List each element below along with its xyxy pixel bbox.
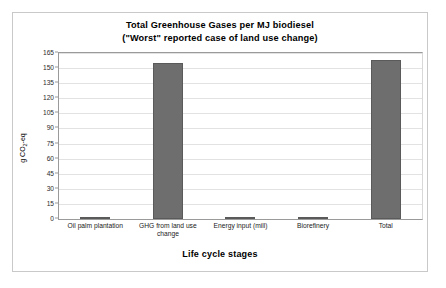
y-tick-label: 15 bbox=[14, 199, 54, 206]
y-tick-label: 60 bbox=[14, 154, 54, 161]
y-tick-label: 45 bbox=[14, 169, 54, 176]
y-tick-mark bbox=[55, 112, 58, 113]
y-tick-label: 165 bbox=[14, 49, 54, 56]
y-tick-mark bbox=[55, 172, 58, 173]
y-tick-mark bbox=[55, 52, 58, 53]
x-tick-label: Biorefinery bbox=[277, 222, 350, 230]
y-tick-mark bbox=[55, 142, 58, 143]
bar-series bbox=[59, 53, 422, 219]
chart-frame: Total Greenhouse Gases per MJ biodiesel … bbox=[12, 12, 428, 272]
x-axis-title: Life cycle stages bbox=[13, 249, 427, 259]
y-tick-mark bbox=[55, 157, 58, 158]
x-tick-label: Energy input (mill) bbox=[204, 222, 277, 230]
x-axis-tick-labels: Oil palm plantationGHG from land use cha… bbox=[59, 222, 422, 248]
y-tick-mark bbox=[55, 127, 58, 128]
y-tick-label: 120 bbox=[14, 94, 54, 101]
y-tick-mark bbox=[55, 187, 58, 188]
bar-slot bbox=[277, 53, 350, 219]
y-tick-mark bbox=[55, 97, 58, 98]
bar[interactable] bbox=[225, 217, 255, 219]
bar[interactable] bbox=[153, 63, 183, 219]
y-tick-mark bbox=[55, 202, 58, 203]
bar-slot bbox=[59, 53, 132, 219]
chart-title: Total Greenhouse Gases per MJ biodiesel … bbox=[13, 19, 427, 44]
x-tick-label: Total bbox=[349, 222, 422, 230]
y-tick-label: 90 bbox=[14, 124, 54, 131]
bar-slot bbox=[204, 53, 277, 219]
y-tick-mark bbox=[55, 218, 58, 219]
y-tick-label: 135 bbox=[14, 79, 54, 86]
chart-title-line-2: ("Worst" reported case of land use chang… bbox=[13, 32, 427, 45]
bar-slot bbox=[132, 53, 205, 219]
y-tick-mark bbox=[55, 67, 58, 68]
y-tick-label: 105 bbox=[14, 109, 54, 116]
chart-title-line-1: Total Greenhouse Gases per MJ biodiesel bbox=[13, 19, 427, 32]
x-tick-label: Oil palm plantation bbox=[59, 222, 132, 230]
gridline bbox=[59, 219, 422, 220]
bar[interactable] bbox=[371, 60, 401, 219]
y-tick-label: 30 bbox=[14, 184, 54, 191]
y-tick-label: 0 bbox=[14, 215, 54, 222]
bar-slot bbox=[349, 53, 422, 219]
bar[interactable] bbox=[298, 217, 328, 220]
bar[interactable] bbox=[80, 217, 110, 220]
x-tick-label: GHG from land use change bbox=[132, 222, 205, 239]
y-tick-label: 150 bbox=[14, 64, 54, 71]
y-tick-mark bbox=[55, 82, 58, 83]
y-tick-label: 75 bbox=[14, 139, 54, 146]
